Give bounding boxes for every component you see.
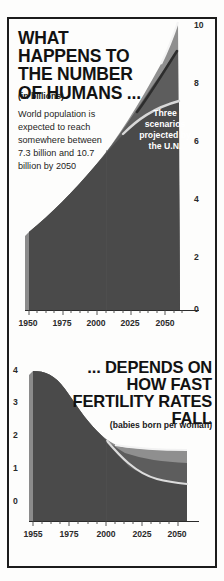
infographic-root: WHAT HAPPENS TO THE NUMBER OF HUMANS ...… [0, 0, 224, 581]
population-xtick-2050: 2050 [148, 318, 182, 328]
population-ytick-2: 2 [194, 252, 199, 262]
fertility-xtick-2050: 2050 [160, 529, 194, 539]
fertility-xtick-1975: 1975 [52, 529, 86, 539]
population-xtick-1975: 1975 [45, 318, 79, 328]
fertility-era-split [106, 441, 107, 521]
population-xtick-1950: 1950 [11, 318, 45, 328]
fertility-ytick-1: 1 [13, 463, 18, 473]
population-ytick-8: 8 [194, 78, 199, 88]
population-ytick-4: 4 [194, 194, 199, 204]
fertility-title: ... DEPENDS ON HOW FAST FERTILITY RATES … [62, 359, 212, 428]
population-ytick-0: 0 [194, 304, 199, 314]
population-callout: Three scenarios projected by the U.N. [134, 108, 196, 153]
population-panel: WHAT HAPPENS TO THE NUMBER OF HUMANS ...… [0, 0, 224, 345]
population-era-split [106, 150, 107, 310]
population-xtick-2025: 2025 [113, 318, 147, 328]
fertility-xtick-1955: 1955 [16, 529, 50, 539]
population-left-edge [25, 232, 29, 310]
fertility-units: (babies born per woman) [82, 420, 212, 431]
population-xtick-2000: 2000 [79, 318, 113, 328]
fertility-left-edge [29, 371, 33, 521]
population-ytick-10: 10 [194, 20, 204, 30]
population-deck: World population is expected to reach so… [18, 108, 104, 173]
fertility-ytick-2: 2 [13, 430, 18, 440]
population-units: (in billions) [18, 91, 64, 101]
fertility-ytick-0: 0 [13, 496, 18, 506]
fertility-xtick-2000: 2000 [89, 529, 123, 539]
fertility-xtick-2025: 2025 [125, 529, 159, 539]
fertility-panel: ... DEPENDS ON HOW FAST FERTILITY RATES … [0, 345, 224, 581]
population-ytick-6: 6 [194, 136, 199, 146]
fertility-ytick-4: 4 [13, 365, 18, 375]
fertility-ytick-3: 3 [13, 397, 18, 407]
